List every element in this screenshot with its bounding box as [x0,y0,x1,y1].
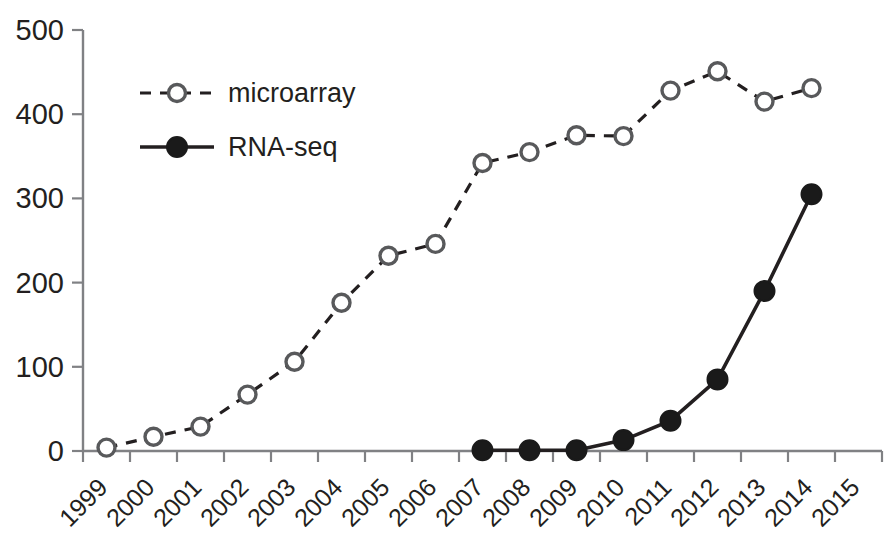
x-tick-label: 2010 [570,473,629,532]
legend-label-microarray: microarray [228,78,356,108]
x-tick-label: 2013 [711,473,770,532]
x-axis: 1999200020012002200320042005200620072008… [53,451,882,532]
legend-label-rna-seq: RNA-seq [228,132,338,162]
data-point-microarray [286,353,303,370]
data-point-rna-seq [473,440,493,460]
data-point-rna-seq [614,430,634,450]
data-point-microarray [662,82,679,99]
x-tick-label: 2007 [429,473,488,532]
y-axis: 0100200300400500 [16,14,83,467]
data-point-microarray [709,63,726,80]
x-tick-label: 2006 [382,473,441,532]
data-series [98,63,822,460]
x-tick-label: 2000 [100,473,159,532]
data-point-microarray [192,418,209,435]
data-point-rna-seq [802,184,822,204]
data-point-rna-seq [661,411,681,431]
y-tick-label: 200 [16,267,64,299]
data-point-microarray [803,80,820,97]
x-tick-label: 2015 [805,473,864,532]
x-tick-label: 1999 [53,473,112,532]
data-point-microarray [239,386,256,403]
data-point-microarray [380,247,397,264]
x-tick-label: 2008 [476,473,535,532]
x-tick-label: 2004 [288,473,347,532]
data-point-microarray [474,155,491,172]
x-tick-label: 2012 [664,473,723,532]
series-line-rna-seq [483,194,812,450]
data-point-microarray [98,439,115,456]
y-tick-label: 500 [16,14,64,46]
x-tick-label: 2009 [523,473,582,532]
data-point-rna-seq [755,281,775,301]
x-tick-label: 2005 [335,473,394,532]
y-tick-label: 100 [16,351,64,383]
x-tick-label: 2011 [619,473,677,531]
chart-container: 0100200300400500 19992000200120022003200… [0,0,890,544]
chart-legend: microarrayRNA-seq [140,78,356,162]
data-point-microarray [521,144,538,161]
x-tick-label: 2003 [241,473,300,532]
data-point-microarray [427,235,444,252]
x-tick-label: 2002 [194,473,253,532]
data-point-microarray [145,428,162,445]
x-tick-label: 2001 [147,473,206,532]
x-tick-label: 2014 [758,473,817,532]
y-tick-label: 400 [16,98,64,130]
data-point-rna-seq [567,440,587,460]
y-tick-label: 0 [48,435,64,467]
data-point-rna-seq [708,369,728,389]
data-point-microarray [333,294,350,311]
line-chart: 0100200300400500 19992000200120022003200… [0,0,890,544]
legend-marker-microarray [169,85,186,102]
y-tick-label: 300 [16,182,64,214]
data-point-microarray [615,128,632,145]
data-point-microarray [756,93,773,110]
data-point-rna-seq [520,440,540,460]
data-point-microarray [568,127,585,144]
legend-marker-rna-seq [167,137,187,157]
